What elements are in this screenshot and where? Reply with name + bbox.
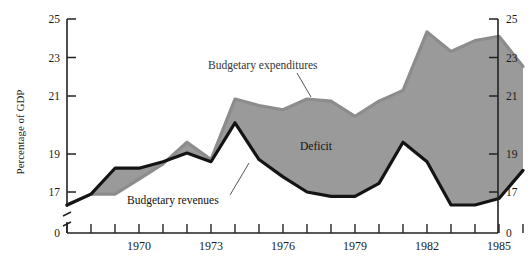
deficit-annotation-label: Deficit — [300, 140, 333, 152]
right-tick-label-zero: 0 — [506, 227, 512, 239]
left-tick-label-zero: 0 — [54, 227, 60, 239]
left-tick-label-21: 21 — [49, 90, 61, 102]
x-tick-label-1970: 1970 — [127, 239, 151, 253]
x-tick-label-1976: 1976 — [271, 239, 295, 253]
revenues-annotation-label: Budgetary revenues — [127, 194, 219, 207]
left-tick-label-19: 19 — [49, 148, 61, 160]
y-axis-title: Percentage of GDP — [14, 90, 26, 175]
right-tick-label-21: 21 — [506, 90, 518, 102]
right-tick-label-23: 23 — [506, 52, 518, 64]
left-tick-label-25: 25 — [49, 13, 61, 25]
right-tick-label-25: 25 — [506, 13, 518, 25]
left-tick-label-17: 17 — [49, 186, 61, 198]
right-tick-label-19: 19 — [506, 148, 518, 160]
expenditures-annotation-label: Budgetary expenditures — [208, 59, 318, 72]
right-tick-label-17: 17 — [506, 186, 518, 198]
x-tick-label-1979: 1979 — [343, 239, 367, 253]
chart-container: 25 23 21 19 17 0 25 23 21 19 17 0 1970 — [0, 0, 531, 266]
left-tick-label-23: 23 — [49, 52, 61, 64]
x-tick-label-1985: 1985 — [487, 239, 511, 253]
deficit-chart: 25 23 21 19 17 0 25 23 21 19 17 0 1970 — [0, 0, 531, 266]
x-tick-label-1973: 1973 — [199, 239, 223, 253]
x-tick-label-1982: 1982 — [415, 239, 439, 253]
